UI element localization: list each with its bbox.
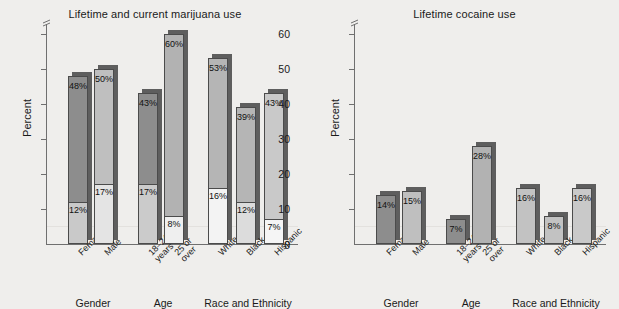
bar-current-value-label: 16% [208, 192, 228, 201]
bar-marijuana-female: 12%48% [68, 76, 88, 244]
y-axis-tick-label: 50 [264, 64, 290, 75]
x-axis-group-label: Race and Ethnicity [188, 297, 308, 309]
y-axis-tick [349, 209, 354, 210]
bar-lifetime-value-label: 60% [164, 40, 184, 49]
y-axis-tick [349, 174, 354, 175]
y-axis-line [354, 24, 355, 245]
y-axis-tick [41, 139, 46, 140]
bar-current-value-label: 8% [164, 220, 184, 229]
bar-current-value-label: 7% [264, 223, 284, 232]
axis-break-icon [42, 15, 51, 27]
bar-lifetime-value-label: 48% [68, 82, 88, 91]
bar-cocaine-female: 14% [376, 195, 396, 244]
bar-lifetime-value-label: 16% [572, 194, 592, 203]
axis-break-icon [350, 15, 359, 27]
plot-area: 0102030405060Percent14%Female15%MaleGend… [354, 24, 602, 245]
bar-cocaine-25-or-over: 28% [472, 146, 492, 244]
bar-cocaine-hispanic: 16% [572, 188, 592, 244]
x-axis-group-label: Race and Ethnicity [496, 297, 616, 309]
bar-lifetime-value-label: 8% [544, 222, 564, 231]
chart-panel-marijuana: Lifetime and current marijuana use010203… [0, 0, 310, 308]
bar-lifetime-value-label: 7% [446, 225, 466, 234]
y-axis-tick [41, 209, 46, 210]
y-axis-tick-label: 20 [264, 169, 290, 180]
y-axis-tick-label: 60 [264, 29, 290, 40]
y-axis-tick [349, 69, 354, 70]
bar-marijuana-25-or-over: 8%60% [164, 34, 184, 244]
y-axis-tick [41, 69, 46, 70]
bar-lifetime-value-label: 28% [472, 152, 492, 161]
y-axis-tick [41, 104, 46, 105]
bar-cocaine-male: 15% [402, 191, 422, 244]
y-axis-tick [349, 139, 354, 140]
y-axis-label: Percent [21, 99, 33, 137]
y-axis-tick [349, 34, 354, 35]
bar-lifetime-value-label: 39% [236, 113, 256, 122]
bar-lifetime-value-label: 16% [516, 194, 536, 203]
y-axis-tick-label: 30 [264, 134, 290, 145]
bar-current-value-label: 17% [94, 188, 114, 197]
bar-marijuana-black: 12%39% [236, 107, 256, 244]
y-axis-tick [349, 104, 354, 105]
bar-marijuana-white: 16%53% [208, 58, 228, 244]
bar-marijuana-18-24-years: 17%43% [138, 93, 158, 244]
plot-area: 0102030405060Percent12%48%Female17%50%Ma… [46, 24, 294, 245]
bar-lifetime-value-label: 43% [138, 99, 158, 108]
y-axis-tick-label: 10 [264, 204, 290, 215]
y-axis-tick-label: 0 [264, 240, 290, 251]
bar-lifetime-value-label: 53% [208, 64, 228, 73]
bar-cocaine-white: 16% [516, 188, 536, 244]
bar-lifetime-value-label: 14% [376, 201, 396, 210]
bar-lifetime-segment [164, 34, 184, 244]
bar-current-value-label: 12% [236, 206, 256, 215]
bar-lifetime-value-label: 15% [402, 197, 422, 206]
bar-current-value-label: 17% [138, 188, 158, 197]
bar-current-value-label: 12% [68, 206, 88, 215]
y-axis-line [46, 24, 47, 245]
y-axis-tick [41, 34, 46, 35]
bar-marijuana-male: 17%50% [94, 69, 114, 244]
y-axis-tick-label: 40 [264, 99, 290, 110]
y-axis-label: Percent [329, 99, 341, 137]
bar-lifetime-value-label: 50% [94, 75, 114, 84]
y-axis-tick [41, 174, 46, 175]
chart-panel-cocaine: Lifetime cocaine use0102030405060Percent… [310, 0, 619, 308]
